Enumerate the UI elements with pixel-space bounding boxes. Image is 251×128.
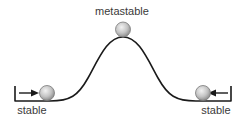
stable-right-label: stable	[201, 104, 230, 116]
top-ball-icon	[116, 22, 131, 37]
metastable-label: metastable	[95, 5, 149, 17]
left-arrow-icon	[19, 90, 39, 97]
right-ball-icon	[196, 86, 211, 101]
stable-left-label: stable	[17, 104, 46, 116]
right-arrow-icon	[208, 90, 228, 97]
left-ball-icon	[40, 86, 55, 101]
metastability-diagram: metastable stable stable	[0, 0, 251, 128]
